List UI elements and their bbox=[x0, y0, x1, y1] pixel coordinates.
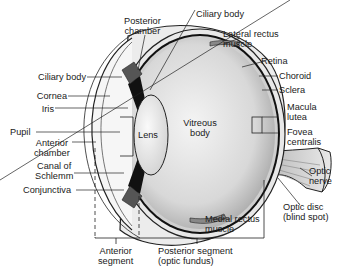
label-lens: Lens bbox=[130, 130, 166, 140]
label-cornea: Cornea bbox=[30, 91, 67, 101]
label-vitreous-body: Vitreous body bbox=[180, 118, 220, 138]
label-posterior-chamber: Posterior chamber bbox=[124, 16, 161, 36]
label-choroid: Choroid bbox=[279, 71, 311, 81]
label-fovea-centralis: Fovea centralis bbox=[287, 127, 321, 147]
label-iris: Iris bbox=[30, 104, 54, 114]
label-medial-rectus-muscle: Medial rectus muscle bbox=[205, 214, 260, 234]
label-canal-of-schlemm: Canal of Schlemm bbox=[35, 161, 73, 181]
label-ciliary-body-top: Ciliary body bbox=[196, 9, 244, 19]
label-conjunctiva: Conjunctiva bbox=[23, 185, 71, 195]
label-lateral-rectus-muscle: Lateral rectus muscle bbox=[223, 29, 279, 49]
label-anterior-segment: Anterior segment bbox=[98, 246, 133, 266]
label-anterior-chamber: Anterior chamber bbox=[34, 138, 70, 158]
label-retina: Retina bbox=[261, 56, 288, 66]
label-sclera: Sclera bbox=[279, 85, 305, 95]
label-posterior-segment: Posterior segment (optic fundus) bbox=[158, 246, 233, 266]
label-pupil: Pupil bbox=[10, 127, 30, 137]
label-ciliary-body-left: Ciliary body bbox=[36, 72, 86, 82]
label-optic-nerve: Optic nerve bbox=[309, 166, 332, 186]
label-optic-disc: Optic disc (blind spot) bbox=[283, 202, 328, 222]
label-macula-lutea: Macula lutea bbox=[287, 102, 317, 122]
